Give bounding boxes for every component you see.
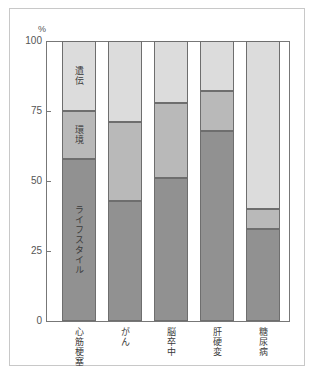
bar-stack[interactable] (154, 41, 188, 322)
category-label-text: 肝硬変 (212, 327, 223, 357)
category-label-text: 脳卒中 (166, 327, 177, 357)
bar-stack[interactable] (108, 41, 142, 322)
y-tick-mark-0 (46, 321, 51, 322)
bar-segment-genetics[interactable] (154, 41, 188, 103)
category-label-text: がん (120, 327, 131, 347)
bar-segment-environment[interactable] (246, 209, 280, 229)
bar-stack[interactable] (200, 41, 234, 322)
bar-segment-lifestyle[interactable] (154, 178, 188, 321)
y-tick-mark-25 (46, 251, 51, 252)
plot-area: % 100 75 50 25 0 ライフスタイル環境遺伝 心筋梗塞がん脳卒中肝硬… (10, 9, 306, 367)
bar-segment-lifestyle[interactable]: ライフスタイル (62, 159, 96, 321)
category-label-text: 心筋梗塞 (74, 327, 85, 367)
bar-segment-environment[interactable] (154, 103, 188, 179)
y-tick-label-0: 0 (36, 316, 42, 326)
category-label-text: 糖尿病 (258, 327, 269, 357)
segment-legend-label-genetics: 遺伝 (74, 66, 85, 86)
bar-segment-genetics[interactable] (200, 41, 234, 91)
plot-right-border (289, 41, 290, 322)
y-tick-mark-100 (46, 41, 51, 42)
bar-segment-genetics[interactable]: 遺伝 (62, 41, 96, 111)
y-axis-unit-label: % (38, 25, 46, 34)
y-tick-label-100: 100 (25, 36, 42, 46)
category-label: 肝硬変 (200, 327, 234, 357)
category-label: 心筋梗塞 (62, 327, 96, 367)
category-label: 糖尿病 (246, 327, 280, 357)
bar-segment-environment[interactable] (108, 122, 142, 200)
y-tick-mark-50 (46, 181, 51, 182)
bar-stack[interactable]: ライフスタイル環境遺伝 (62, 41, 96, 322)
chart-frame: % 100 75 50 25 0 ライフスタイル環境遺伝 心筋梗塞がん脳卒中肝硬… (9, 8, 305, 366)
bar-segment-genetics[interactable] (108, 41, 142, 122)
bar-segment-environment[interactable]: 環境 (62, 111, 96, 159)
bar-segment-genetics[interactable] (246, 41, 280, 209)
segment-legend-label-lifestyle: ライフスタイル (74, 205, 85, 275)
y-tick-mark-75 (46, 111, 51, 112)
bar-stack[interactable] (246, 41, 280, 322)
bar-segment-lifestyle[interactable] (246, 229, 280, 321)
bar-segment-environment[interactable] (200, 91, 234, 130)
segment-legend-label-environment: 環境 (74, 125, 85, 145)
bar-segment-lifestyle[interactable] (200, 131, 234, 321)
category-label: 脳卒中 (154, 327, 188, 357)
y-tick-label-75: 75 (31, 106, 42, 116)
bar-segment-lifestyle[interactable] (108, 201, 142, 321)
y-tick-label-25: 25 (31, 246, 42, 256)
y-tick-label-50: 50 (31, 176, 42, 186)
category-label: がん (108, 327, 142, 347)
